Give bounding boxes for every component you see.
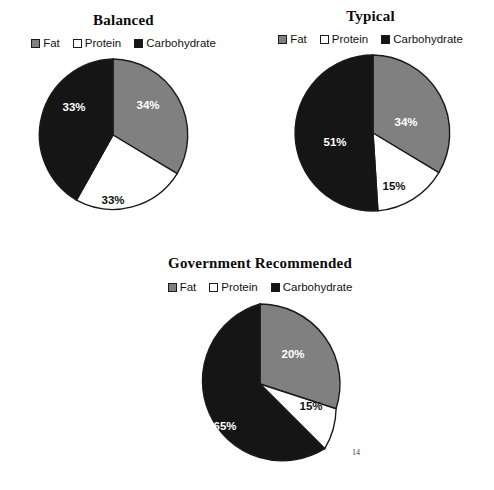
pie-label-carbohydrate: 33% xyxy=(62,101,85,113)
protein-swatch xyxy=(73,39,82,48)
carbohydrate-swatch xyxy=(134,39,143,48)
fat-swatch xyxy=(31,39,40,48)
pie-label-fat: 34% xyxy=(136,99,159,111)
chart-panel-typical: Typical Fat Protein Carbohydrate 34% 15%… xyxy=(247,8,494,213)
chart-title: Government Recommended xyxy=(120,255,400,272)
chart-title: Balanced xyxy=(0,12,247,29)
legend-label-protein: Protein xyxy=(221,282,257,294)
pie-chart-balanced[interactable]: 34% 33% 33% xyxy=(35,57,247,213)
legend-item-protein[interactable]: Protein xyxy=(320,34,368,46)
legend-item-carbohydrate[interactable]: Carbohydrate xyxy=(271,282,353,294)
pie-chart-typical[interactable]: 34% 15% 51% xyxy=(293,53,494,213)
chart-legend: Fat Protein Carbohydrate xyxy=(120,282,400,294)
chart-legend: Fat Protein Carbohydrate xyxy=(247,34,494,46)
pie-label-fat: 34% xyxy=(394,116,417,128)
legend-item-protein[interactable]: Protein xyxy=(209,282,257,294)
pie-label-protein: 33% xyxy=(101,194,124,206)
legend-label-carbohydrate: Carbohydrate xyxy=(283,282,353,294)
fat-swatch xyxy=(278,35,287,44)
legend-item-protein[interactable]: Protein xyxy=(73,38,121,50)
legend-label-protein: Protein xyxy=(85,38,121,50)
pie-svg: 34% 15% 51% xyxy=(293,53,453,213)
pie-chart-government-recommended[interactable]: 20% 15% 65% xyxy=(178,302,400,466)
protein-swatch xyxy=(209,283,218,292)
page-number: 14 xyxy=(352,448,360,457)
pie-label-protein: 15% xyxy=(299,400,322,412)
legend-item-fat[interactable]: Fat xyxy=(168,282,197,294)
legend-label-fat: Fat xyxy=(43,38,60,50)
legend-label-carbohydrate: Carbohydrate xyxy=(146,38,216,50)
pie-svg: 20% 15% 65% xyxy=(178,302,342,466)
legend-label-protein: Protein xyxy=(332,34,368,46)
pie-label-carbohydrate: 51% xyxy=(323,136,346,148)
pie-label-protein: 15% xyxy=(382,180,405,192)
legend-label-fat: Fat xyxy=(290,34,307,46)
chart-title: Typical xyxy=(247,8,494,25)
pie-svg: 34% 33% 33% xyxy=(35,57,191,213)
fat-swatch xyxy=(168,283,177,292)
legend-item-carbohydrate[interactable]: Carbohydrate xyxy=(134,38,216,50)
protein-swatch xyxy=(320,35,329,44)
pie-label-fat: 20% xyxy=(281,348,304,360)
pie-slice-carbohydrate[interactable] xyxy=(295,55,378,211)
carbohydrate-swatch xyxy=(271,283,280,292)
legend-label-carbohydrate: Carbohydrate xyxy=(393,34,463,46)
legend-item-carbohydrate[interactable]: Carbohydrate xyxy=(381,34,463,46)
chart-panel-balanced: Balanced Fat Protein Carbohydrate 34% 33… xyxy=(0,12,247,213)
pie-label-carbohydrate: 65% xyxy=(213,420,236,432)
carbohydrate-swatch xyxy=(381,35,390,44)
slide-canvas: { "page": { "page_number": "14" }, "colo… xyxy=(0,0,494,490)
legend-item-fat[interactable]: Fat xyxy=(278,34,307,46)
legend-item-fat[interactable]: Fat xyxy=(31,38,60,50)
legend-label-fat: Fat xyxy=(180,282,197,294)
chart-panel-government-recommended: Government Recommended Fat Protein Carbo… xyxy=(120,255,400,466)
chart-legend: Fat Protein Carbohydrate xyxy=(0,38,247,50)
